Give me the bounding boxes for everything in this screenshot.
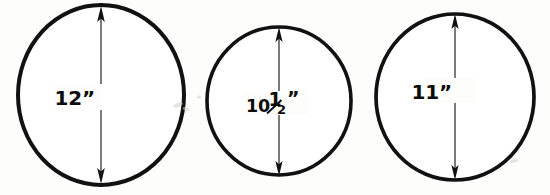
dimension-label-2-fraction-denominator: 2 (277, 102, 286, 117)
dimension-label-2-unit: ” (287, 87, 299, 109)
dimension-label-2-whole: 10 (246, 96, 270, 116)
diagram-canvas: 12” 10 1 2 ” 11” (0, 0, 550, 195)
circle-group-1: 12” (18, 5, 184, 185)
scan-speck (197, 96, 201, 99)
dimension-label-3: 11” (412, 80, 452, 104)
circle-group-3: 11” (376, 14, 534, 180)
circle-diameter-diagram: 12” 10 1 2 ” 11” (0, 0, 550, 195)
dimension-label-1: 12” (55, 86, 95, 110)
circle-group-2: 10 1 2 ” (207, 27, 351, 176)
